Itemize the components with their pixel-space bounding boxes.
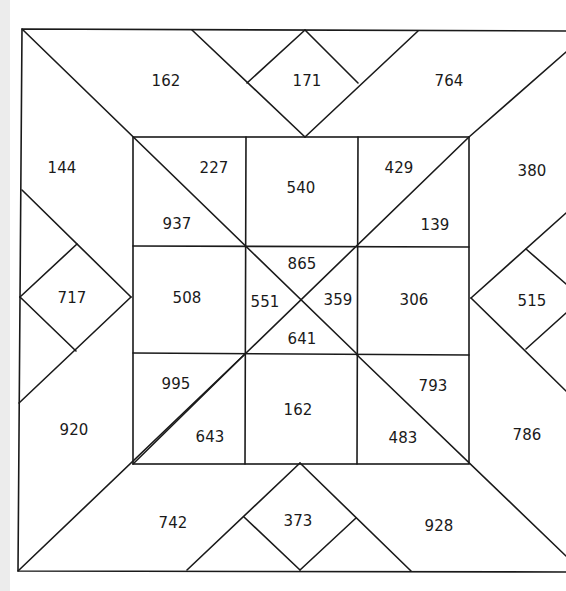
- grid-h2: [133, 353, 469, 355]
- cell-top-left-lower: 937: [162, 215, 191, 233]
- cell-center-right: 359: [323, 291, 352, 309]
- region-left-lower: 920: [59, 421, 88, 439]
- grid-v1: [245, 137, 246, 464]
- cell-center-left: 551: [250, 293, 279, 311]
- top-right-slant: [469, 52, 566, 137]
- cell-bottom-left-lower: 643: [195, 428, 224, 446]
- diag-bottomright: [357, 355, 566, 556]
- region-bottom-left: 742: [158, 514, 187, 532]
- region-right-diamond: 515: [517, 292, 546, 310]
- right-diamond-b: [526, 313, 566, 349]
- region-bottom-diamond: 373: [283, 512, 312, 530]
- cell-center-bottom: 641: [287, 330, 316, 348]
- right-tri-upper: [471, 213, 566, 298]
- cell-middle-left: 508: [172, 289, 201, 307]
- diag-bl-inner: [133, 354, 245, 464]
- cell-bottom-right-lower: 483: [388, 429, 417, 447]
- grid-h1: [133, 246, 469, 247]
- cell-top-left-upper: 227: [199, 159, 228, 177]
- region-right-upper: 380: [517, 162, 546, 180]
- cell-top-center: 540: [286, 179, 315, 197]
- grid-v2: [357, 137, 358, 464]
- region-top-right: 764: [434, 72, 463, 90]
- region-left-upper: 144: [47, 159, 76, 177]
- cell-top-right-upper: 429: [384, 159, 413, 177]
- region-top-diamond: 171: [292, 72, 321, 90]
- outer-frame: [18, 29, 566, 572]
- cell-bottom-left-upper: 995: [161, 375, 190, 393]
- region-bottom-right: 928: [424, 517, 453, 535]
- region-left-diamond: 717: [57, 289, 86, 307]
- cell-bottom-center: 162: [283, 401, 312, 419]
- region-top-left: 162: [151, 72, 180, 90]
- cell-center-top: 865: [287, 255, 316, 273]
- right-tri-lower: [471, 298, 566, 391]
- region-right-lower: 786: [512, 426, 541, 444]
- right-diamond-t: [526, 249, 566, 284]
- cell-top-right-lower: 139: [420, 216, 449, 234]
- cell-bottom-right-upper: 793: [418, 377, 447, 395]
- cell-middle-right: 306: [399, 291, 428, 309]
